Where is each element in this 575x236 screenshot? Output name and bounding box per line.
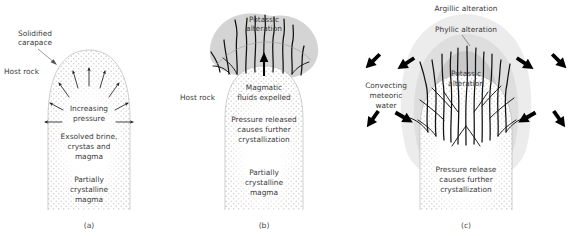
- panel-a: Solidified carapace Host rock Increasing…: [0, 0, 180, 236]
- label-partially-a-line2: crystalline: [70, 185, 109, 194]
- label-partially-b-line2: crystalline: [245, 178, 284, 187]
- label-exsolved-line3: magma: [75, 152, 103, 161]
- label-increasing-pressure-line1: Increasing: [70, 104, 108, 113]
- label-magmatic-line1: Magmatic: [246, 83, 282, 92]
- label-exsolved-line1: Exsolved brine,: [61, 132, 118, 141]
- label-partially-a-line1: Partially: [74, 175, 104, 184]
- label-solidified-carapace-line2: carapace: [18, 38, 52, 47]
- label-potassic-b-line1: Potassic: [249, 15, 279, 24]
- label-increasing-pressure-line2: pressure: [73, 114, 105, 123]
- label-partially-b-line3: magma: [250, 188, 278, 197]
- panel-c: Argillic alteration Phyllic alteration P…: [358, 0, 575, 236]
- label-convecting-line3: water: [375, 101, 397, 110]
- caption-a: (a): [84, 221, 95, 230]
- caption-c: (c): [461, 221, 471, 230]
- label-magmatic-line2: fluids expelled: [237, 93, 291, 102]
- label-partially-a-line3: magma: [75, 195, 103, 204]
- label-potassic-c-line1: Potassic: [451, 69, 481, 78]
- label-pressure-b-line2: causes further: [237, 125, 291, 134]
- label-pressure-c-line3: crystallization: [440, 185, 492, 194]
- label-potassic-c-line2: alteration: [448, 79, 484, 88]
- label-argillic-alteration: Argillic alteration: [434, 4, 497, 13]
- caption-b: (b): [259, 221, 270, 230]
- label-partially-b-line1: Partially: [249, 168, 279, 177]
- label-pressure-c-line1: Pressure release: [436, 165, 497, 174]
- label-pressure-b-line1: Pressure released: [231, 115, 297, 124]
- label-pressure-b-line3: crystallization: [238, 135, 290, 144]
- label-host-rock-b: Host rock: [180, 93, 216, 102]
- label-host-rock-a: Host rock: [4, 67, 40, 76]
- label-exsolved-line2: crystas and: [68, 142, 111, 151]
- label-solidified-carapace-line1: Solidified: [18, 29, 52, 38]
- figure-porphyry-alteration-stages: Solidified carapace Host rock Increasing…: [0, 0, 575, 236]
- label-potassic-b-line2: alteration: [246, 24, 282, 33]
- label-convecting-line2: meteoric: [370, 91, 403, 100]
- label-phyllic-alteration: Phyllic alteration: [435, 25, 497, 34]
- label-pressure-c-line2: causes further: [439, 175, 493, 184]
- panel-b: Potassic alteration Host rock Magmatic f…: [175, 0, 365, 236]
- label-convecting-line1: Convecting: [365, 81, 407, 90]
